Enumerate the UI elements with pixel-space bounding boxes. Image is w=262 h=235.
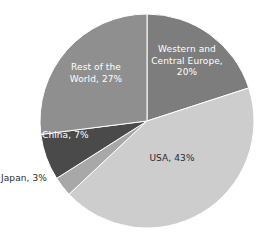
pie-graphic [0,0,262,235]
pie-slices [40,14,254,228]
pie-slice-rest-of-the-world [40,14,147,134]
pie-chart: Western and Central Europe, 20% Rest of … [0,0,262,235]
